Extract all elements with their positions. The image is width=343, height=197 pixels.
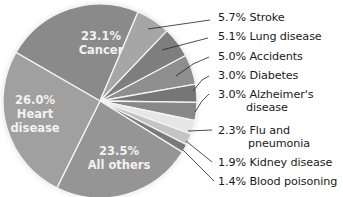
label-flu-line1: 2.3% Flu and bbox=[218, 124, 290, 137]
label-alzheimers-line1: 3.0% Alzheimer's bbox=[218, 88, 313, 101]
heart-percent: 26.0% bbox=[5, 93, 65, 107]
label-accidents: 5.0% Accidents bbox=[218, 50, 303, 63]
label-stroke: 5.7% Stroke bbox=[218, 11, 285, 24]
others-name: All others bbox=[84, 158, 154, 172]
label-flu-line2: pneumonia bbox=[248, 137, 310, 150]
label-blood-poisoning: 1.4% Blood poisoning bbox=[218, 175, 337, 188]
cancer-label: 23.1% Cancer bbox=[66, 29, 136, 57]
heart-name-line1: Heart bbox=[5, 107, 65, 121]
label-alzheimers-line2: disease bbox=[246, 101, 288, 114]
cancer-name: Cancer bbox=[66, 43, 136, 57]
leader-blood bbox=[183, 150, 214, 181]
others-percent: 23.5% bbox=[84, 144, 154, 158]
label-kidney-disease: 1.9% Kidney disease bbox=[218, 156, 332, 169]
cancer-percent: 23.1% bbox=[66, 29, 136, 43]
heart-name-line2: disease bbox=[5, 121, 65, 135]
heart-disease-label: 26.0% Heart disease bbox=[5, 93, 65, 135]
label-lung-disease: 5.1% Lung disease bbox=[218, 30, 322, 43]
label-diabetes: 3.0% Diabetes bbox=[218, 69, 298, 82]
all-others-label: 23.5% All others bbox=[84, 144, 154, 172]
leader-kidney bbox=[186, 141, 212, 162]
